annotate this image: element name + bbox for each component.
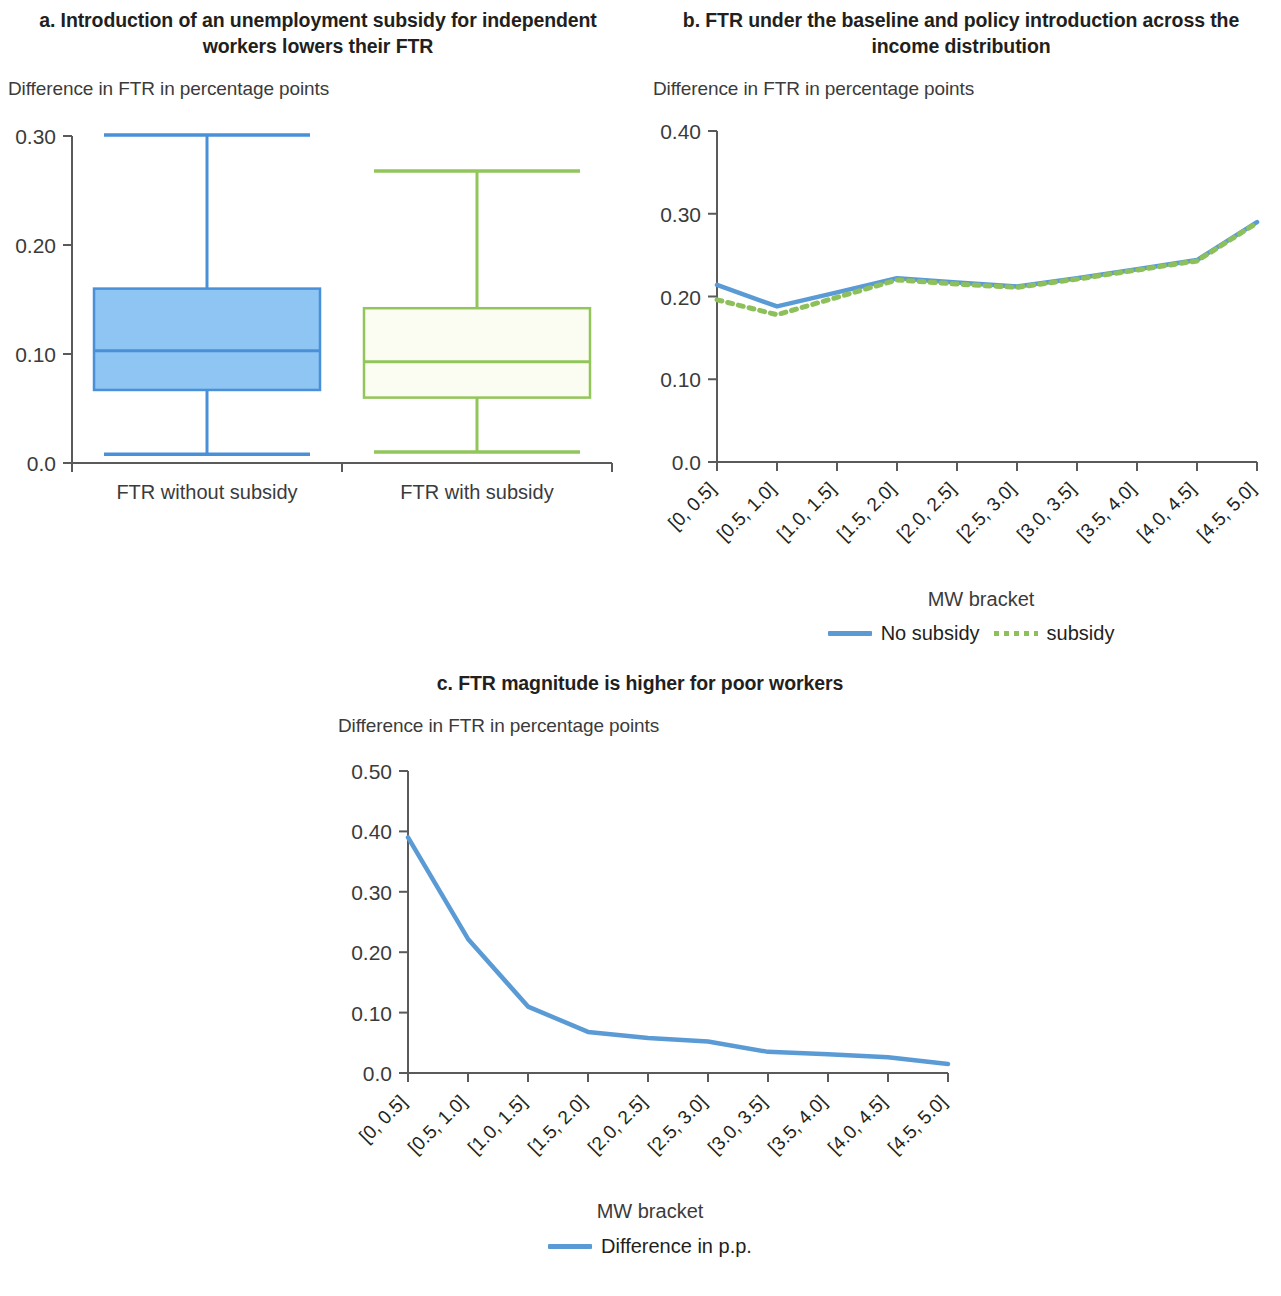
x-tick-label: [2.0, 2.5] [893, 478, 960, 545]
y-tick-label: 0.40 [351, 820, 392, 843]
x-tick-label: [3.5, 4.0] [1073, 478, 1140, 545]
legend-label: Difference in p.p. [601, 1235, 752, 1258]
panel-a-title: a. Introduction of an unemployment subsi… [38, 0, 598, 59]
panel-c-x-caption: MW bracket [380, 1200, 920, 1223]
y-tick-label: 0.0 [27, 452, 56, 475]
box-rect[interactable] [364, 308, 590, 397]
x-category-label: FTR with subsidy [400, 481, 553, 503]
x-tick-label: [4.0, 4.5] [824, 1091, 891, 1158]
legend-item-no-subsidy[interactable]: No subsidy [828, 622, 980, 645]
box-plot-group [94, 135, 320, 454]
series-line-difference-in-p-p- [408, 837, 948, 1063]
legend-item-difference[interactable]: Difference in p.p. [548, 1235, 752, 1258]
y-tick-label: 0.30 [15, 125, 56, 148]
x-tick-label: [0.5, 1.0] [404, 1091, 471, 1158]
box-plot-group [364, 171, 590, 452]
x-tick-label: [1.0, 1.5] [464, 1091, 531, 1158]
y-tick-label: 0.10 [660, 368, 701, 391]
x-tick-label: [1.5, 2.0] [524, 1091, 591, 1158]
y-tick-label: 0.0 [363, 1062, 392, 1085]
x-tick-label: [3.0, 3.5] [1013, 478, 1080, 545]
panel-c-title: c. FTR magnitude is higher for poor work… [290, 665, 990, 697]
panel-c-legend: Difference in p.p. [370, 1235, 930, 1258]
panel-b-plot: 0.00.100.200.300.40[0, 0.5][0.5, 1.0][1.… [641, 110, 1281, 580]
x-tick-label: [0.5, 1.0] [713, 478, 780, 545]
x-tick-label: [3.0, 3.5] [704, 1091, 771, 1158]
y-tick-label: 0.0 [672, 451, 701, 474]
x-tick-label: [2.0, 2.5] [584, 1091, 651, 1158]
y-tick-label: 0.20 [351, 941, 392, 964]
x-tick-label: [0, 0.5] [664, 478, 720, 534]
x-tick-label: [4.5, 5.0] [884, 1091, 951, 1158]
legend-item-subsidy[interactable]: subsidy [994, 622, 1115, 645]
x-tick-label: [0, 0.5] [355, 1091, 411, 1147]
x-tick-label: [2.5, 3.0] [644, 1091, 711, 1158]
panel-c-plot: 0.00.100.200.300.400.50[0, 0.5][0.5, 1.0… [330, 753, 970, 1193]
panel-b-y-note: Difference in FTR in percentage points [653, 78, 974, 100]
panel-b-title: b. FTR under the baseline and policy int… [671, 0, 1251, 59]
x-tick-label: [1.5, 2.0] [833, 478, 900, 545]
panel-b-x-caption: MW bracket [701, 588, 1261, 611]
x-category-label: FTR without subsidy [116, 481, 297, 503]
panel-c-y-note: Difference in FTR in percentage points [338, 715, 659, 737]
x-tick-label: [3.5, 4.0] [764, 1091, 831, 1158]
y-tick-label: 0.20 [660, 286, 701, 309]
y-tick-label: 0.40 [660, 120, 701, 143]
panel-a: a. Introduction of an unemployment subsi… [0, 0, 640, 520]
box-rect[interactable] [94, 289, 320, 390]
panel-a-svg: 0.00.100.200.30FTR without subsidyFTR wi… [0, 110, 640, 520]
panel-c-svg: 0.00.100.200.300.400.50[0, 0.5][0.5, 1.0… [330, 753, 970, 1193]
panel-a-y-note: Difference in FTR in percentage points [8, 78, 329, 100]
x-tick-label: [1.0, 1.5] [773, 478, 840, 545]
legend-label: subsidy [1047, 622, 1115, 645]
panel-c: c. FTR magnitude is higher for poor work… [0, 665, 1281, 1296]
x-tick-label: [4.0, 4.5] [1133, 478, 1200, 545]
legend-label: No subsidy [881, 622, 980, 645]
y-tick-label: 0.30 [351, 881, 392, 904]
panel-a-plot: 0.00.100.200.30FTR without subsidyFTR wi… [0, 110, 640, 520]
y-tick-label: 0.20 [15, 234, 56, 257]
x-tick-label: [2.5, 3.0] [953, 478, 1020, 545]
y-tick-label: 0.10 [15, 343, 56, 366]
y-tick-label: 0.10 [351, 1002, 392, 1025]
line-swatch-icon [828, 631, 872, 636]
y-tick-label: 0.30 [660, 203, 701, 226]
line-swatch-icon [548, 1244, 592, 1249]
panel-b-svg: 0.00.100.200.300.40[0, 0.5][0.5, 1.0][1.… [641, 110, 1281, 580]
x-tick-label: [4.5, 5.0] [1193, 478, 1260, 545]
panel-b-legend: No subsidy subsidy [681, 622, 1261, 645]
panel-b: b. FTR under the baseline and policy int… [641, 0, 1281, 670]
dotted-line-swatch-icon [994, 631, 1038, 636]
y-tick-label: 0.50 [351, 760, 392, 783]
